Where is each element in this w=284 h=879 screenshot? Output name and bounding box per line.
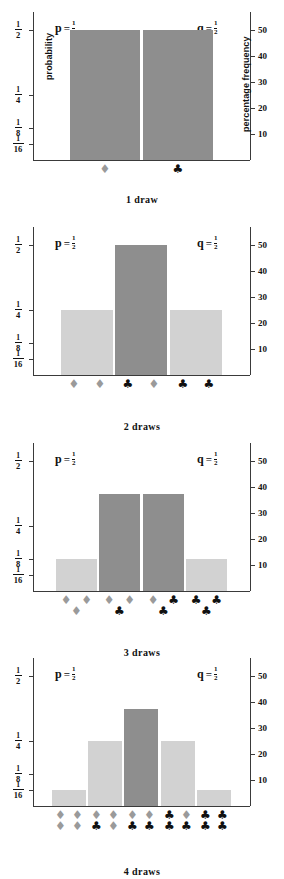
- chart-caption: 2 draws: [0, 421, 284, 432]
- club-icon: ♣: [115, 379, 141, 390]
- suit-group: ♦♣♣: [143, 595, 184, 617]
- suit-group: ♣♣♣♣: [197, 810, 231, 832]
- chart-panel-2: 1214181165040302010p=12q=12♦♦♣♦♣♣2 draws: [0, 227, 284, 455]
- club-icon: ♣: [141, 821, 158, 832]
- club-icon: ♣: [153, 606, 174, 617]
- chart-caption: 1 draw: [0, 194, 284, 205]
- bar: [61, 310, 113, 375]
- suit-group: ♦♦♦♦: [52, 810, 86, 832]
- suit-group: ♦♦♦: [56, 595, 97, 617]
- suit-group: ♣♦♣♣: [161, 810, 195, 832]
- club-icon: ♣: [197, 821, 214, 832]
- suit-group: ♣♣: [170, 379, 222, 390]
- club-icon: ♣: [161, 821, 178, 832]
- club-icon: ♣: [178, 821, 195, 832]
- diamond-icon: ♦: [66, 606, 87, 617]
- bar-series: [0, 658, 284, 806]
- bar: [143, 494, 184, 591]
- bar-series: [0, 443, 284, 591]
- diamond-icon: ♦: [61, 379, 87, 390]
- baseline-axis: [33, 375, 250, 376]
- bar: [124, 709, 158, 806]
- bar: [56, 559, 97, 591]
- club-icon: ♣: [109, 606, 130, 617]
- club-icon: ♣: [143, 164, 213, 175]
- bar: [52, 790, 86, 806]
- bar: [99, 494, 140, 591]
- club-icon: ♣: [170, 379, 196, 390]
- chart-caption: 4 draws: [0, 866, 284, 877]
- bar: [143, 30, 213, 160]
- suit-group: ♦♦♣♦: [88, 810, 122, 832]
- chart-panel-4: 1214181165040302010p=12q=12♦♦♦♦♦♦♣♦♦♦♣♣♣…: [0, 658, 284, 879]
- suit-group: ♣: [143, 164, 213, 175]
- suit-group: ♦: [70, 164, 140, 175]
- chart-caption: 3 draws: [0, 647, 284, 658]
- club-icon: ♣: [214, 821, 231, 832]
- suit-group: ♦♦: [61, 379, 113, 390]
- suit-group: ♦♦♣♣: [124, 810, 158, 832]
- club-icon: ♣: [124, 821, 141, 832]
- bar: [88, 741, 122, 806]
- bar: [115, 245, 167, 375]
- bar-series: [0, 12, 284, 160]
- suit-group: ♦♦♣: [99, 595, 140, 617]
- bar: [197, 790, 231, 806]
- bar: [70, 30, 140, 160]
- baseline-axis: [33, 806, 250, 807]
- diamond-icon: ♦: [141, 379, 167, 390]
- diamond-icon: ♦: [87, 379, 113, 390]
- club-icon: ♣: [196, 379, 222, 390]
- baseline-axis: [33, 160, 250, 161]
- bar: [170, 310, 222, 375]
- bar: [161, 741, 195, 806]
- diamond-icon: ♦: [105, 821, 122, 832]
- club-icon: ♣: [88, 821, 105, 832]
- suit-group: ♣♣♣: [186, 595, 227, 617]
- diamond-icon: ♦: [52, 821, 69, 832]
- bar: [186, 559, 227, 591]
- suit-group: ♣♦: [115, 379, 167, 390]
- baseline-axis: [33, 591, 250, 592]
- diamond-icon: ♦: [69, 821, 86, 832]
- bar-series: [0, 227, 284, 375]
- chart-panel-3: 1214181165040302010p=12q=12♦♦♦♦♦♣♦♣♣♣♣♣3…: [0, 443, 284, 671]
- club-icon: ♣: [196, 606, 217, 617]
- chart-panel-1: 1214181165040302010probabilitypercentage…: [0, 12, 284, 240]
- diamond-icon: ♦: [70, 164, 140, 175]
